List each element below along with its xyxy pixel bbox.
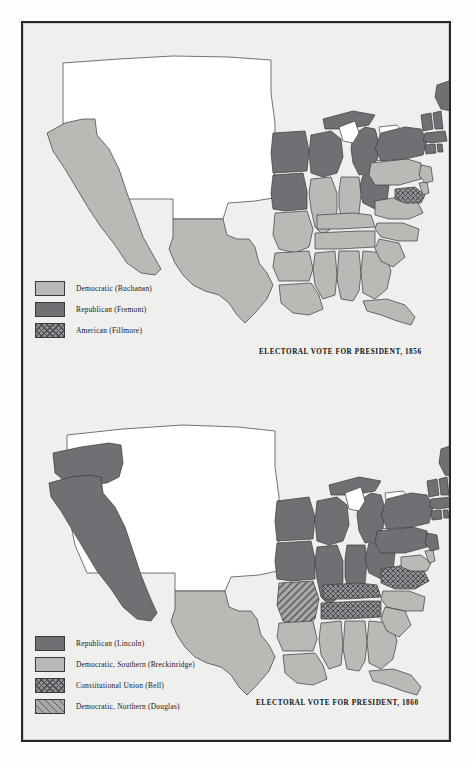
state-new-hampshire — [439, 477, 449, 495]
state-minnesota — [275, 497, 315, 541]
state-louisiana — [283, 653, 327, 685]
legend-label-republican: Republican (Fremont) — [76, 305, 146, 314]
legend-swatch-democratic-northern-icon — [35, 699, 65, 714]
state-arkansas — [273, 251, 313, 281]
state-texas — [169, 219, 273, 323]
legend-label-american: American (Fillmore) — [76, 326, 142, 335]
state-alabama — [337, 251, 361, 301]
state-missouri — [277, 581, 319, 625]
state-rhode-island — [443, 510, 449, 518]
legend-label-democratic: Democratic (Buchanan) — [76, 284, 152, 293]
state-connecticut — [425, 144, 436, 154]
legend-1860: Republican (Lincoln) Democratic, Souther… — [35, 636, 195, 720]
legend-item-republican: Republican (Fremont) — [35, 302, 152, 317]
state-massachusetts — [423, 131, 447, 143]
legend-1856: Democratic (Buchanan) Republican (Fremon… — [35, 281, 152, 344]
state-tennessee — [321, 601, 381, 619]
state-vermont — [421, 113, 433, 131]
state-new-york — [381, 493, 433, 529]
state-rhode-island — [437, 144, 443, 152]
state-north-carolina — [375, 223, 419, 241]
state-pennsylvania — [369, 159, 421, 185]
state-maine — [435, 81, 449, 111]
legend-swatch-constitutional-union-icon — [35, 678, 65, 693]
state-wisconsin — [315, 497, 349, 545]
state-pennsylvania — [375, 527, 427, 553]
state-wisconsin — [309, 131, 343, 177]
legend-swatch-american-icon — [35, 323, 65, 338]
legend-swatch-republican-icon — [35, 636, 65, 651]
state-tennessee — [315, 231, 375, 249]
page-root: Democratic (Buchanan) Republican (Fremon… — [0, 0, 473, 764]
legend-label-democratic-southern: Democratic, Southern (Breckinridge) — [76, 660, 195, 669]
state-minnesota — [271, 131, 309, 173]
state-florida — [369, 669, 421, 695]
state-florida — [363, 299, 415, 325]
legend-swatch-democratic-icon — [35, 281, 65, 296]
legend-item-democratic-northern: Democratic, Northern (Douglas) — [35, 699, 195, 714]
state-arkansas — [277, 621, 317, 651]
legend-item-democratic: Democratic (Buchanan) — [35, 281, 152, 296]
figure-1856: Democratic (Buchanan) Republican (Fremon… — [23, 23, 449, 391]
map-plate: Democratic (Buchanan) Republican (Fremon… — [21, 21, 451, 742]
state-new-jersey — [425, 533, 439, 551]
state-iowa — [271, 173, 307, 211]
state-alabama — [343, 621, 367, 671]
state-maryland — [401, 555, 431, 571]
state-maine — [439, 445, 449, 477]
state-iowa — [275, 541, 315, 581]
legend-item-american: American (Fillmore) — [35, 323, 152, 338]
legend-swatch-democratic-southern-icon — [35, 657, 65, 672]
caption-1860: ELECTORAL VOTE FOR PRESIDENT, 1860 — [256, 699, 419, 707]
state-kentucky — [317, 213, 375, 229]
state-connecticut — [431, 510, 442, 520]
legend-label-democratic-northern: Democratic, Northern (Douglas) — [76, 702, 180, 711]
legend-item-constitutional-union: Constitutional Union (Bell) — [35, 678, 195, 693]
state-vermont — [427, 479, 439, 497]
state-maryland — [395, 187, 425, 203]
state-massachusetts — [429, 497, 449, 509]
legend-label-constitutional-union: Constitutional Union (Bell) — [76, 681, 164, 690]
state-new-hampshire — [433, 111, 443, 129]
legend-label-republican: Republican (Lincoln) — [76, 639, 144, 648]
legend-item-republican: Republican (Lincoln) — [35, 636, 195, 651]
caption-1856: ELECTORAL VOTE FOR PRESIDENT, 1856 — [259, 348, 422, 356]
state-new-jersey — [419, 165, 433, 183]
state-kentucky — [323, 583, 381, 599]
state-mississippi — [319, 621, 343, 669]
legend-swatch-republican-icon — [35, 302, 65, 317]
legend-item-democratic-southern: Democratic, Southern (Breckinridge) — [35, 657, 195, 672]
state-missouri — [273, 211, 313, 253]
figure-1860: Republican (Lincoln) Democratic, Souther… — [23, 391, 449, 740]
